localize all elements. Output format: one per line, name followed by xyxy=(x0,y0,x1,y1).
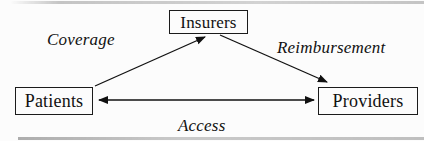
edge-label-access: Access xyxy=(178,117,225,134)
node-providers: Providers xyxy=(318,87,418,115)
node-patients-label: Patients xyxy=(25,92,84,110)
node-insurers: Insurers xyxy=(169,10,248,34)
node-patients: Patients xyxy=(15,87,93,115)
node-providers-label: Providers xyxy=(333,92,404,110)
edge-label-coverage: Coverage xyxy=(47,31,115,48)
triangle-diagram: Insurers Patients Providers Coverage Rei… xyxy=(0,0,424,141)
node-insurers-label: Insurers xyxy=(180,14,236,31)
edge-label-reimbursement: Reimbursement xyxy=(277,39,385,56)
